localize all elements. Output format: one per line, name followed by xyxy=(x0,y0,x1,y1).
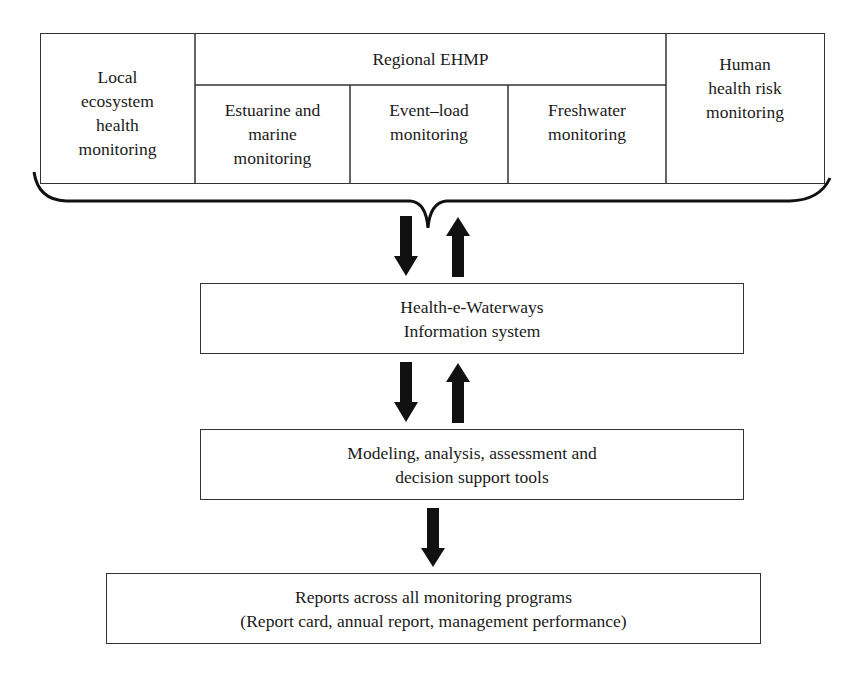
health-e-waterways-info-system-box: Health-e-Waterways Information system xyxy=(200,283,744,354)
down-arrow-icon xyxy=(421,508,445,567)
reports-box: Reports across all monitoring programs (… xyxy=(106,573,761,644)
brace-icon xyxy=(34,172,830,228)
decision-support-tools-box: Modeling, analysis, assessment and decis… xyxy=(200,429,744,500)
down-arrow-icon xyxy=(394,362,418,422)
up-arrow-icon xyxy=(446,363,470,423)
down-arrow-icon xyxy=(394,216,418,276)
up-arrow-icon xyxy=(446,217,470,277)
